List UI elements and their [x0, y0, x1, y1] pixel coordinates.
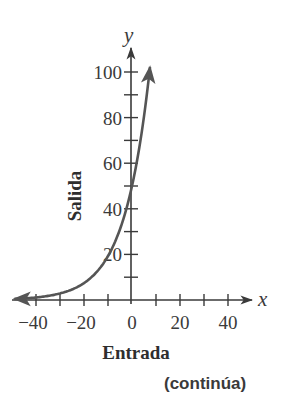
y-tick-label: 40 [103, 199, 122, 220]
y-axis-letter: y [122, 23, 134, 47]
x-axis-letter: x [257, 287, 268, 311]
continues-label: (continúa) [164, 374, 246, 394]
axes [12, 48, 252, 304]
y-tick-label: 60 [103, 153, 122, 174]
x-tick-label: −20 [66, 312, 96, 333]
x-tick-labels: −40−2002040 [18, 312, 237, 333]
y-tick-label: 80 [103, 108, 122, 129]
x-axis-title: Entrada [102, 342, 170, 363]
y-axis-title: Salida [64, 170, 85, 221]
x-tick-label: 20 [171, 312, 190, 333]
exponential-chart: −40−2002040 20406080100 y x Salida Entra… [0, 0, 284, 419]
y-tick-label: 100 [94, 62, 123, 83]
x-tick-label: −40 [18, 312, 48, 333]
x-tick-label: 0 [127, 312, 137, 333]
x-tick-label: 40 [219, 312, 238, 333]
